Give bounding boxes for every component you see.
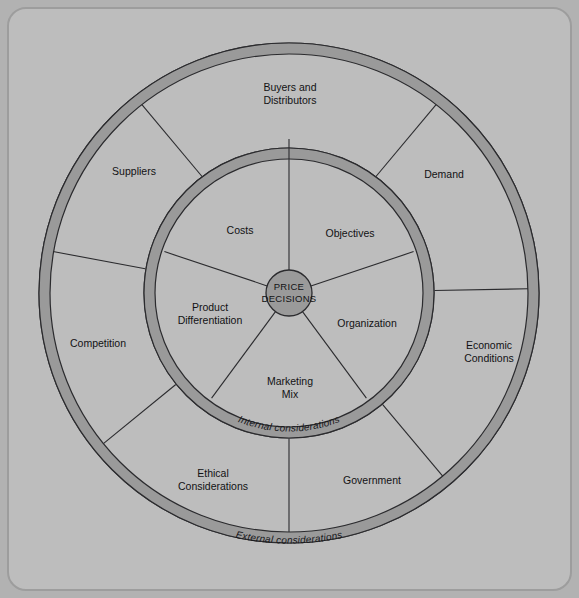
outer-segment-economic-label2: Conditions xyxy=(464,352,514,364)
inner-segment-marketing-mix-label2: Mix xyxy=(282,388,299,400)
outer-segment-suppliers-label1: Suppliers xyxy=(112,165,156,177)
inner-segment-organization[interactable]: Organization xyxy=(337,317,397,329)
diagram-canvas: PRICE DECISIONS Internal considerations … xyxy=(0,0,579,598)
outer-segment-ethical-label2: Considerations xyxy=(178,480,248,492)
outer-segment-competition-label1: Competition xyxy=(70,337,126,349)
inner-segment-costs-label1: Costs xyxy=(227,224,254,236)
outer-segment-economic-label1: Economic xyxy=(466,339,512,351)
inner-segment-objectives[interactable]: Objectives xyxy=(325,227,374,239)
inner-segment-product-differentiation-label2: Differentiation xyxy=(178,314,243,326)
outer-segment-competition[interactable]: Competition xyxy=(70,337,126,349)
inner-segment-costs[interactable]: Costs xyxy=(227,224,254,236)
outer-segment-suppliers[interactable]: Suppliers xyxy=(112,165,156,177)
inner-segment-objectives-label1: Objectives xyxy=(325,227,374,239)
inner-segment-organization-label1: Organization xyxy=(337,317,397,329)
inner-segment-marketing-mix-label1: Marketing xyxy=(267,375,313,387)
outer-segment-ethical-label1: Ethical xyxy=(197,467,229,479)
outer-segment-economic-conditions[interactable]: Economic Conditions xyxy=(464,339,514,364)
outer-segment-government-label1: Government xyxy=(343,474,401,486)
outer-segment-demand[interactable]: Demand xyxy=(424,168,464,180)
outer-segment-buyers-and-distributors[interactable]: Buyers and Distributors xyxy=(263,81,316,106)
inner-segment-product-differentiation-label1: Product xyxy=(192,301,228,313)
center-label-line1: PRICE xyxy=(274,281,305,292)
outer-segment-demand-label1: Demand xyxy=(424,168,464,180)
outer-segment-government[interactable]: Government xyxy=(343,474,401,486)
outer-segment-buyers-label2: Distributors xyxy=(263,94,316,106)
outer-segment-buyers-label1: Buyers and xyxy=(263,81,316,93)
price-decisions-wheel: PRICE DECISIONS Internal considerations … xyxy=(0,0,579,598)
center-label-line2: DECISIONS xyxy=(262,293,317,304)
